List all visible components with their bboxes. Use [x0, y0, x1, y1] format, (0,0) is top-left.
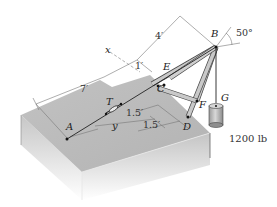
- point-B: [215, 46, 218, 49]
- weight-cylinder: [209, 104, 223, 128]
- dim-7ft: 7′: [80, 83, 88, 94]
- label-D: D: [182, 121, 191, 132]
- label-A: A: [65, 121, 73, 132]
- label-F: F: [198, 99, 207, 110]
- dim-4ft: 4′: [155, 30, 163, 41]
- label-C: C: [157, 83, 165, 94]
- statics-diagram: A B C D E F G T x y 7′ 1′ 4′ 1.5′ 1.5′ 5…: [0, 0, 277, 207]
- point-A: [66, 138, 69, 141]
- label-x-axis: x: [105, 44, 111, 55]
- load-label: 1200 lb: [229, 133, 267, 144]
- label-y-axis: y: [111, 120, 118, 131]
- label-B: B: [210, 28, 218, 39]
- point-D: [187, 116, 190, 119]
- dim-1ft: 1′: [135, 60, 143, 71]
- dim-1.5ft-upper: 1.5′: [126, 107, 143, 118]
- angle-50deg: 50°: [236, 27, 253, 38]
- label-G: G: [221, 92, 229, 103]
- label-E: E: [162, 61, 171, 72]
- dim-1.5ft-lower: 1.5′: [143, 119, 160, 130]
